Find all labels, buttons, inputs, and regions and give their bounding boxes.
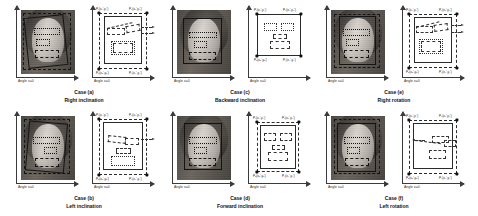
y-axis: [16, 112, 17, 184]
angle-label-c-right: Angle x=0: [250, 79, 266, 83]
case-e-photo-panel: Angle x=0: [320, 6, 392, 86]
case-group-d: Angle x=0 P₁(x₁',y₁') P₂(x₂',y₂') P₃(x₃'…: [164, 110, 316, 216]
caption-case-c-name: Backward inclination: [164, 96, 316, 104]
point-label-p4: P₄(x₄',y₄'): [439, 70, 452, 74]
y-axis: [402, 6, 403, 78]
corner-node-p1: [97, 11, 100, 14]
corner-node-p1: [407, 12, 410, 15]
angle-label-e-right: Angle x=0: [404, 79, 420, 83]
case-e-panels: Angle x=0 P₁(x₁',y₁') P₂(x₂',y₂') P₃(x₃'…: [318, 4, 470, 88]
case-b-photo-panel: Angle x=0: [10, 112, 82, 192]
case-a-panels: Angle x=0 P₁(x₁',y₁') P₂(x₂',y₂') P₃(x₃'…: [8, 4, 160, 88]
point-label-p1: P₁(x₁',y₁'): [406, 114, 418, 118]
point-label-p4: P₄(x₄',y₄'): [283, 58, 296, 62]
angle-label-a-left: Angle x=0: [18, 79, 34, 83]
point-label-p2: P₂(x₂',y₂'): [439, 114, 452, 118]
point-label-p4: P₄(x₄',y₄'): [439, 176, 452, 180]
caption-case-b-name: Left inclination: [8, 202, 160, 210]
point-label-p3: P₃(x₃',y₃'): [254, 58, 267, 62]
figure-canvas: Angle x=0 P₁(x₁',y₁') P₂(x₂',y₂') P₃(x₃'…: [0, 0, 478, 216]
case-a-photo-panel: Angle x=0: [10, 6, 82, 86]
corner-node-p4: [299, 54, 302, 57]
geometry-diagram-f: P₁(x₁',y₁') P₂(x₂',y₂') P₃(x₃',y₃') P₄(x…: [407, 116, 461, 180]
y-axis: [92, 6, 93, 78]
point-label-p3: P₃(x₃',y₃'): [406, 176, 419, 180]
point-label-p2: P₂(x₂',y₂'): [283, 8, 296, 12]
case-c-photo-panel: Angle x=0: [166, 6, 238, 86]
caption-case-b: Case (b) Left inclination: [8, 194, 160, 210]
case-a-diagram-panel: P₁(x₁',y₁') P₂(x₂',y₂') P₃(x₃',y₃') P₄(x…: [86, 6, 158, 86]
corner-node-p2: [297, 120, 300, 123]
face-photo-a: [21, 10, 75, 74]
caption-case-a-name: Right inclination: [8, 96, 160, 104]
y-axis: [248, 6, 249, 78]
geometry-diagram-e: P₁(x₁',y₁') P₂(x₂',y₂') P₃(x₃',y₃') P₄(x…: [407, 10, 461, 74]
case-group-c: Angle x=0 P₁(x₁',y₁') P₂(x₂',y₂') P₃(x₃'…: [164, 4, 316, 112]
geometry-diagram-d: P₁(x₁',y₁') P₂(x₂',y₂') P₃(x₃',y₃') P₄(x…: [253, 116, 307, 180]
caption-case-a-label: Case (a): [74, 89, 93, 95]
face-photo-c: [177, 10, 231, 74]
point-label-p4: P₄(x₄',y₄'): [282, 174, 295, 178]
caption-case-d-name: Forward inclination: [164, 202, 316, 210]
y-axis: [248, 112, 249, 184]
corner-node-p2: [145, 117, 148, 120]
angle-label-f-left: Angle x=0: [328, 185, 344, 189]
point-label-p2: P₂(x₂',y₂'): [129, 7, 142, 11]
y-axis: [92, 112, 93, 184]
angle-label-b-left: Angle x=0: [18, 185, 34, 189]
caption-case-c: Case (c) Backward inclination: [164, 88, 316, 104]
case-f-panels: Angle x=0 P₁(x₁',y₁') P₂(x₂',y₂') P₃(x₃'…: [318, 110, 470, 194]
angle-label-c-left: Angle x=0: [174, 79, 190, 83]
caption-case-f-label: Case (f): [385, 195, 403, 201]
case-b-diagram-panel: P₁(x₁',y₁') P₂(x₂',y₂') P₃(x₃',y₃') P₄(x…: [86, 112, 158, 192]
caption-case-e-name: Right rotation: [318, 96, 470, 104]
corner-node-p2: [145, 11, 148, 14]
point-label-p1: P₁(x₁',y₁'): [406, 8, 418, 12]
case-f-photo-panel: Angle x=0: [320, 112, 392, 192]
geometry-diagram-b: P₁(x₁',y₁') P₂(x₂',y₂') P₃(x₃',y₃') P₄(x…: [97, 116, 151, 180]
angle-label-d-left: Angle x=0: [174, 185, 190, 189]
caption-case-b-label: Case (b): [74, 195, 94, 201]
point-label-p3: P₃(x₃',y₃'): [406, 70, 419, 74]
case-f-diagram-panel: P₁(x₁',y₁') P₂(x₂',y₂') P₃(x₃',y₃') P₄(x…: [396, 112, 468, 192]
corner-node-p4: [145, 67, 148, 70]
point-label-p2: P₂(x₂',y₂'): [282, 116, 295, 120]
caption-case-d: Case (d) Forward inclination: [164, 194, 316, 210]
geometry-diagram-a: P₁(x₁',y₁') P₂(x₂',y₂') P₃(x₃',y₃') P₄(x…: [97, 10, 151, 74]
corner-node-p2: [455, 12, 458, 15]
corner-node-p1: [97, 117, 100, 120]
y-axis: [402, 112, 403, 184]
angle-label-d-right: Angle x=0: [250, 185, 266, 189]
corner-node-p4: [297, 170, 300, 173]
case-d-photo-panel: Angle x=0: [166, 112, 238, 192]
point-label-p3: P₃(x₃',y₃'): [96, 71, 109, 75]
caption-case-d-label: Case (d): [230, 195, 250, 201]
case-group-f: Angle x=0 P₁(x₁',y₁') P₂(x₂',y₂') P₃(x₃'…: [318, 110, 470, 216]
caption-case-a: Case (a) Right inclination: [8, 88, 160, 104]
point-label-p3: P₃(x₃',y₃'): [253, 174, 266, 178]
case-d-panels: Angle x=0 P₁(x₁',y₁') P₂(x₂',y₂') P₃(x₃'…: [164, 110, 316, 194]
corner-node-p1: [407, 118, 410, 121]
case-group-e: Angle x=0 P₁(x₁',y₁') P₂(x₂',y₂') P₃(x₃'…: [318, 4, 470, 112]
case-c-panels: Angle x=0 P₁(x₁',y₁') P₂(x₂',y₂') P₃(x₃'…: [164, 4, 316, 88]
y-axis: [172, 6, 173, 78]
point-label-p4: P₄(x₄',y₄'): [129, 71, 142, 75]
angle-label-e-left: Angle x=0: [328, 79, 344, 83]
corner-node-p4: [145, 173, 148, 176]
point-label-p1: P₁(x₁',y₁'): [96, 7, 108, 11]
caption-case-e-label: Case (e): [384, 89, 403, 95]
case-group-b: Angle x=0 P₁(x₁',y₁') P₂(x₂',y₂') P₃(x₃'…: [8, 110, 160, 216]
angle-label-a-right: Angle x=0: [94, 79, 110, 83]
corner-node-p4: [455, 66, 458, 69]
angle-label-f-right: Angle x=0: [404, 185, 420, 189]
case-b-panels: Angle x=0 P₁(x₁',y₁') P₂(x₂',y₂') P₃(x₃'…: [8, 110, 160, 194]
face-photo-d: [177, 116, 231, 180]
corner-node-p4: [455, 172, 458, 175]
face-photo-b: [21, 116, 75, 180]
case-e-diagram-panel: P₁(x₁',y₁') P₂(x₂',y₂') P₃(x₃',y₃') P₄(x…: [396, 6, 468, 86]
point-label-p4: P₄(x₄',y₄'): [129, 177, 142, 181]
y-axis: [172, 112, 173, 184]
corner-node-p1: [255, 120, 258, 123]
corner-node-p1: [255, 12, 258, 15]
case-d-diagram-panel: P₁(x₁',y₁') P₂(x₂',y₂') P₃(x₃',y₃') P₄(x…: [242, 112, 314, 192]
